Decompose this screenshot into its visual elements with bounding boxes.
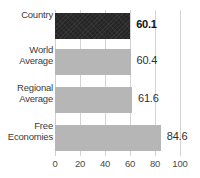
x-tick-0: 0 [52,158,57,169]
x-axis-tick-labels: 0 20 40 60 80 100 [0,158,200,174]
x-tick-60: 60 [125,158,135,169]
plot-area: Country 60.1 World Average 60.4 Regional… [0,0,200,178]
table-row: World Average 60.4 [0,46,200,79]
category-label-line2: Average [0,56,53,67]
category-label-free-economies: Free Economies [0,121,53,142]
bar-free-economies[interactable] [55,125,161,151]
value-label-world-average: 60.4 [137,54,158,66]
category-label-country: Country [0,10,53,21]
category-label-world-average: World Average [0,45,53,66]
bar-regional-average[interactable] [55,87,132,113]
table-row: Free Economies 84.6 [0,122,200,155]
bar-country[interactable] [55,13,130,39]
category-label-line1: World [0,45,53,56]
bar-world-average[interactable] [55,49,131,75]
table-row: Regional Average 61.6 [0,84,200,117]
category-label-line2: Average [0,94,53,105]
value-label-regional-average: 61.6 [138,92,159,104]
value-label-free-economies: 84.6 [167,130,188,142]
category-label-regional-average: Regional Average [0,83,53,104]
category-label-line1: Regional [0,83,53,94]
value-label-country: 60.1 [136,18,157,30]
category-label-line2: Economies [0,132,53,143]
x-tick-80: 80 [150,158,160,169]
x-tick-40: 40 [100,158,110,169]
x-tick-100: 100 [172,158,187,169]
bar-chart: Country 60.1 World Average 60.4 Regional… [0,0,200,178]
table-row: Country 60.1 [0,10,200,43]
x-tick-20: 20 [75,158,85,169]
category-label-line1: Free [0,121,53,132]
